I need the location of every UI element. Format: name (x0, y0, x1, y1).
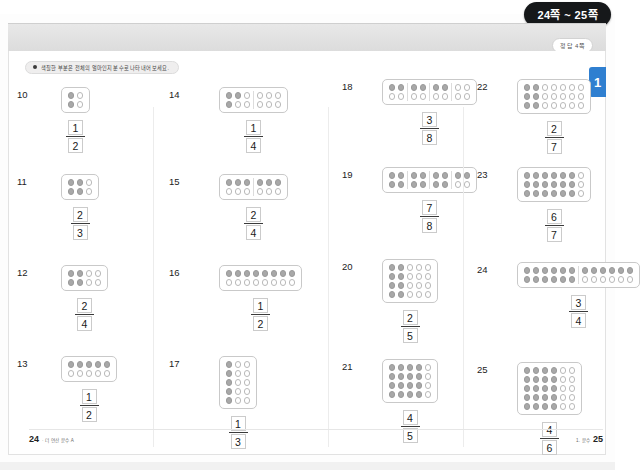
circle-cell[interactable] (234, 178, 243, 187)
circle-cell[interactable] (626, 275, 635, 284)
circle-cell[interactable] (76, 178, 85, 187)
circle-cell[interactable] (541, 180, 550, 189)
circle-cell[interactable] (397, 281, 406, 290)
circle-cell[interactable] (234, 378, 243, 387)
circle-cell[interactable] (568, 92, 577, 101)
circle-cell[interactable] (85, 187, 94, 196)
circle-cell[interactable] (388, 281, 397, 290)
circle-cell[interactable] (388, 180, 397, 189)
circle-cell[interactable] (523, 393, 532, 402)
circle-cell[interactable] (388, 390, 397, 399)
circle-cell[interactable] (550, 366, 559, 375)
circle-cell[interactable] (225, 187, 234, 196)
circle-cell[interactable] (617, 275, 626, 284)
answer-fraction[interactable]: 25 (401, 310, 420, 343)
circle-cell[interactable] (397, 390, 406, 399)
circle-cell[interactable] (523, 275, 532, 284)
circle-cell[interactable] (288, 278, 297, 287)
fraction-numerator[interactable]: 1 (68, 120, 83, 135)
circle-cell[interactable] (415, 290, 424, 299)
circle-cell[interactable] (103, 360, 112, 369)
circle-cell[interactable] (577, 101, 586, 110)
fraction-denominator[interactable]: 2 (253, 316, 268, 331)
answer-fraction[interactable]: 78 (420, 200, 439, 233)
circle-cell[interactable] (94, 360, 103, 369)
circle-cell[interactable] (265, 178, 274, 187)
circle-cell[interactable] (559, 266, 568, 275)
circle-cell[interactable] (388, 171, 397, 180)
circle-cell[interactable] (406, 272, 415, 281)
fraction-numerator[interactable]: 4 (403, 410, 418, 425)
circle-cell[interactable] (559, 101, 568, 110)
circle-cell[interactable] (550, 266, 559, 275)
circle-cell[interactable] (577, 180, 586, 189)
circle-cell[interactable] (541, 275, 550, 284)
circle-cell[interactable] (243, 91, 252, 100)
circle-cell[interactable] (388, 83, 397, 92)
circle-cell[interactable] (523, 266, 532, 275)
answer-fraction[interactable]: 24 (75, 298, 94, 331)
circle-cell[interactable] (256, 100, 265, 109)
circle-cell[interactable] (225, 360, 234, 369)
circle-cell[interactable] (532, 375, 541, 384)
circle-cell[interactable] (225, 378, 234, 387)
circle-cell[interactable] (441, 171, 450, 180)
answer-fraction[interactable]: 12 (66, 120, 85, 153)
circle-cell[interactable] (388, 381, 397, 390)
circle-cell[interactable] (541, 384, 550, 393)
circle-cell[interactable] (523, 83, 532, 92)
answer-fraction[interactable]: 27 (545, 121, 564, 154)
circle-cell[interactable] (424, 263, 433, 272)
circle-cell[interactable] (225, 387, 234, 396)
fraction-numerator[interactable]: 1 (82, 389, 97, 404)
circle-cell[interactable] (225, 178, 234, 187)
circle-cell[interactable] (550, 83, 559, 92)
fraction-denominator[interactable]: 8 (422, 218, 437, 233)
circle-cell[interactable] (541, 402, 550, 411)
circle-cell[interactable] (67, 178, 76, 187)
circle-cell[interactable] (424, 363, 433, 372)
circle-cell[interactable] (523, 366, 532, 375)
circle-cell[interactable] (568, 384, 577, 393)
circle-cell[interactable] (243, 100, 252, 109)
circle-cell[interactable] (256, 187, 265, 196)
circle-cell[interactable] (550, 384, 559, 393)
circle-cell[interactable] (243, 269, 252, 278)
circle-cell[interactable] (432, 83, 441, 92)
fraction-denominator[interactable]: 7 (547, 139, 562, 154)
circle-cell[interactable] (397, 272, 406, 281)
circle-cell[interactable] (67, 369, 76, 378)
fraction-denominator[interactable]: 2 (82, 407, 97, 422)
circle-cell[interactable] (406, 281, 415, 290)
fraction-numerator[interactable]: 1 (246, 120, 261, 135)
answer-fraction[interactable]: 12 (251, 298, 270, 331)
circle-cell[interactable] (243, 387, 252, 396)
circle-cell[interactable] (397, 290, 406, 299)
circle-cell[interactable] (581, 275, 590, 284)
circle-cell[interactable] (94, 369, 103, 378)
circle-cell[interactable] (541, 92, 550, 101)
circle-cell[interactable] (626, 266, 635, 275)
circle-cell[interactable] (541, 375, 550, 384)
circle-cell[interactable] (85, 278, 94, 287)
circle-cell[interactable] (270, 269, 279, 278)
circle-cell[interactable] (265, 100, 274, 109)
circle-cell[interactable] (76, 91, 85, 100)
circle-cell[interactable] (577, 189, 586, 198)
circle-cell[interactable] (568, 393, 577, 402)
circle-cell[interactable] (454, 180, 463, 189)
circle-cell[interactable] (550, 189, 559, 198)
fraction-numerator[interactable]: 3 (571, 295, 586, 310)
circle-cell[interactable] (532, 189, 541, 198)
fraction-numerator[interactable]: 7 (422, 200, 437, 215)
circle-cell[interactable] (397, 372, 406, 381)
circle-cell[interactable] (550, 375, 559, 384)
circle-cell[interactable] (265, 187, 274, 196)
circle-cell[interactable] (234, 278, 243, 287)
circle-cell[interactable] (568, 180, 577, 189)
circle-cell[interactable] (608, 275, 617, 284)
circle-cell[interactable] (85, 360, 94, 369)
circle-cell[interactable] (388, 272, 397, 281)
circle-cell[interactable] (415, 363, 424, 372)
circle-cell[interactable] (568, 171, 577, 180)
